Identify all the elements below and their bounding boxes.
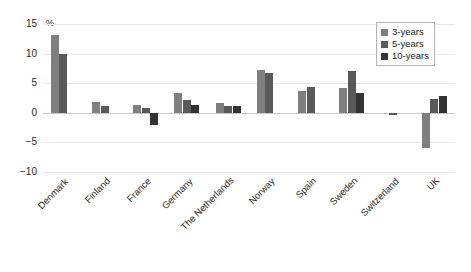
y-tick-label: −10 <box>20 167 37 177</box>
bar <box>224 106 232 113</box>
bar <box>183 100 191 113</box>
bar <box>298 91 306 112</box>
x-axis-label: Germany <box>160 176 194 210</box>
chart-legend: 3-years5-years10-years <box>376 22 435 66</box>
y-tick-label: −5 <box>26 137 37 147</box>
chart-root: % 151050−5−10 DenmarkFinlandFranceGerman… <box>0 0 471 272</box>
legend-swatch-icon <box>381 29 388 36</box>
bar-group <box>339 24 365 172</box>
bar <box>233 106 241 113</box>
x-axis-label: Norway <box>247 176 276 205</box>
y-tick-label: 5 <box>31 78 37 88</box>
bar-group <box>174 24 200 172</box>
legend-swatch-icon <box>381 41 388 48</box>
bar <box>133 105 141 113</box>
bar-group <box>92 24 118 172</box>
x-axis-label: Spain <box>294 176 318 200</box>
bar-group <box>216 24 242 172</box>
bar-group <box>133 24 159 172</box>
bar <box>51 35 59 113</box>
bar <box>174 93 182 113</box>
bar-group <box>257 24 283 172</box>
bar <box>389 113 397 115</box>
x-axis-label: UK <box>425 176 441 192</box>
legend-item[interactable]: 10-years <box>381 50 429 62</box>
bar <box>348 71 356 112</box>
bar <box>430 99 438 113</box>
x-axis-label: France <box>125 176 153 204</box>
bar <box>142 108 150 113</box>
y-tick-label: 10 <box>26 49 37 59</box>
bar <box>92 102 100 113</box>
legend-label: 5-years <box>392 39 424 49</box>
bar <box>257 70 265 113</box>
gridline--10 <box>43 172 455 173</box>
x-axis-label: Sweden <box>328 176 359 207</box>
legend-label: 3-years <box>392 27 424 37</box>
bar <box>59 54 67 113</box>
bar <box>265 73 273 113</box>
bar-group <box>51 24 77 172</box>
bar-group <box>298 24 324 172</box>
bar <box>339 88 347 113</box>
y-tick-label: 15 <box>26 19 37 29</box>
bar <box>422 113 430 149</box>
bar <box>356 93 364 113</box>
bar <box>191 105 199 113</box>
bar <box>101 106 109 113</box>
legend-item[interactable]: 3-years <box>381 26 429 38</box>
x-axis-label: Denmark <box>36 176 70 210</box>
x-axis-label: Finland <box>83 176 112 205</box>
bar <box>307 87 315 113</box>
x-axis-label: Switzerland <box>359 176 400 217</box>
bar <box>439 96 447 113</box>
bar <box>150 113 158 125</box>
bar <box>216 103 224 112</box>
legend-swatch-icon <box>381 53 388 60</box>
y-tick-label: 0 <box>31 108 37 118</box>
legend-label: 10-years <box>392 51 429 61</box>
legend-item[interactable]: 5-years <box>381 38 429 50</box>
